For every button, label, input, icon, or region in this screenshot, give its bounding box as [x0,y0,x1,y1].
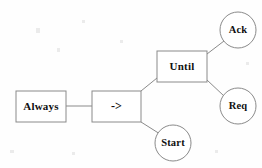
node-until[interactable]: Until [157,51,207,82]
node-arrow-label: -> [111,99,122,113]
node-start[interactable]: Start [155,125,191,161]
node-ack[interactable]: Ack [220,12,256,48]
diagram-svg: Always -> Until Ack Req Start [0,0,262,168]
node-req[interactable]: Req [220,88,256,124]
edge-arrow-to-start [141,122,160,134]
node-req-label: Req [229,100,248,111]
node-start-label: Start [161,137,185,148]
node-until-label: Until [170,60,195,72]
node-always[interactable]: Always [16,91,66,122]
node-ack-label: Ack [229,24,248,35]
node-always-label: Always [23,100,59,112]
edge-arrow-to-until [141,78,157,91]
edge-until-to-req [207,80,224,96]
diagram-canvas: Always -> Until Ack Req Start [0,0,262,168]
node-arrow[interactable]: -> [92,91,141,122]
edge-until-to-ack [207,41,224,54]
